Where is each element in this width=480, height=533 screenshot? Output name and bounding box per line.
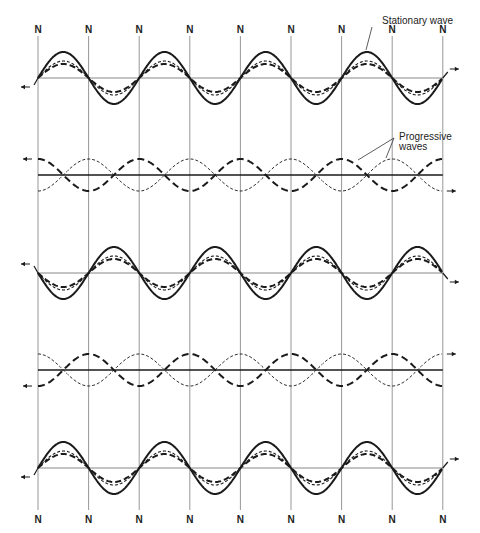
node-label-bottom: N [237,514,244,525]
node-label-top: N [136,24,143,35]
wave-row-2 [23,157,456,193]
right-arrow-head [455,67,459,71]
node-label-bottom: N [136,514,143,525]
right-arrow-head [452,189,456,193]
progressive-waves-label-line2: waves [398,141,427,152]
right-arrow-head [452,352,456,356]
progressive-leader-line-1 [358,138,394,160]
node-label-bottom: N [389,514,396,525]
left-tail [34,78,38,85]
right-arrow-head [455,457,459,461]
left-arrow-head [21,85,25,89]
wave-row-3 [21,247,459,299]
node-label-top: N [237,24,244,35]
progressive-leader-line-2 [386,138,394,158]
wave-row-4 [23,352,456,388]
stationary-wave-diagram: NNNNNNNNN NNNNNNNNN Stationary wave Prog… [0,0,480,533]
node-label-bottom: N [34,514,41,525]
left-arrow-head [21,262,25,266]
left-arrow-head [21,475,25,479]
stationary-wave-leader-line [366,27,372,50]
right-arrow-head [455,280,459,284]
bottom-node-labels: NNNNNNNNN [34,514,446,525]
node-label-bottom: N [85,514,92,525]
node-label-bottom: N [439,514,446,525]
node-label-bottom: N [338,514,345,525]
node-label-top: N [186,24,193,35]
node-label-top: N [338,24,345,35]
wave-row-1 [21,52,459,104]
left-tail [34,468,38,475]
left-arrow-head [23,384,27,388]
stationary-wave-label: Stationary wave [382,15,454,26]
right-tail [443,72,448,78]
right-tail [443,273,448,279]
right-tail [443,462,448,468]
left-arrow-head [23,157,27,161]
progressive-waves-annotation: Progressive waves [358,131,452,160]
wave-rows [21,52,459,494]
wave-row-5 [21,442,459,494]
left-tail [34,266,38,273]
node-label-top: N [34,24,41,35]
node-label-top: N [85,24,92,35]
node-label-bottom: N [186,514,193,525]
node-label-top: N [287,24,294,35]
node-label-bottom: N [287,514,294,525]
